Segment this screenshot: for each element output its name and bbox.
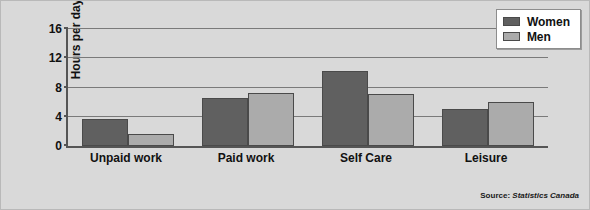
category-label-2: Self Care <box>306 151 426 169</box>
y-tick-label-4: 4 <box>36 111 62 123</box>
legend-label-women: Women <box>527 15 570 29</box>
chart-legend: WomenMen <box>496 9 581 49</box>
legend-item-men[interactable]: Men <box>503 29 570 44</box>
source-name: Statistics Canada <box>512 191 579 200</box>
category-label-3: Leisure <box>426 151 546 169</box>
plot-area <box>66 29 548 148</box>
bar-group <box>308 29 428 146</box>
legend-label-men: Men <box>527 30 551 44</box>
y-axis-ticks: 0481216 <box>34 29 62 146</box>
category-label-1: Paid work <box>186 151 306 169</box>
y-tick-label-12: 12 <box>36 52 62 64</box>
legend-item-women[interactable]: Women <box>503 14 570 29</box>
y-tick-label-8: 8 <box>36 82 62 94</box>
category-label-0: Unpaid work <box>66 151 186 169</box>
y-tick-label-0: 0 <box>36 140 62 152</box>
bar-unpaid-work-women <box>82 119 128 146</box>
bar-paid-work-men <box>248 93 294 146</box>
bar-group <box>68 29 188 146</box>
bar-self-care-women <box>322 71 368 146</box>
legend-swatch-icon-men <box>503 32 520 41</box>
bar-group <box>188 29 308 146</box>
source-prefix: Source: <box>480 191 510 200</box>
bar-leisure-women <box>442 109 488 146</box>
y-tick-label-16: 16 <box>36 23 62 35</box>
bar-self-care-men <box>368 94 414 146</box>
bar-chart-figure: Hours per day 0481216 Unpaid workPaid wo… <box>0 0 590 210</box>
source-note: Source: Statistics Canada <box>480 191 579 200</box>
bar-unpaid-work-men <box>128 134 174 146</box>
bar-leisure-men <box>488 102 534 146</box>
legend-swatch-icon-women <box>503 17 520 26</box>
bar-paid-work-women <box>202 98 248 146</box>
bar-groups <box>68 29 548 146</box>
x-axis-category-labels: Unpaid workPaid workSelf CareLeisure <box>66 151 546 169</box>
